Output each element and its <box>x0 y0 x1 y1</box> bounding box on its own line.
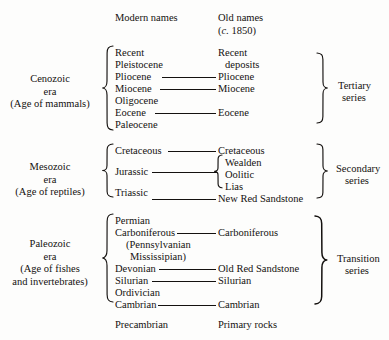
era-name-cenozoic: Cenozoic <box>0 73 100 86</box>
old-name-eocene: Eocene <box>218 107 249 119</box>
modern-name-cambrian: Cambrian <box>115 299 156 311</box>
connector-triassic <box>152 199 216 200</box>
old-name-oolitic: Oolitic <box>225 169 254 181</box>
modern-name-pleistocene: Pleistocene <box>115 59 163 71</box>
modern-name-jurassic: Jurassic <box>115 166 148 178</box>
old-name-old-red-sandstone: Old Red Sandstone <box>218 263 299 275</box>
geological-time-scale-diagram: Modern names Old names (c. 1850) Cenozoi… <box>0 0 389 340</box>
modern-name-mississipian: Mississipian) <box>130 251 186 263</box>
old-name-new-red-sandstone: New Red Sandstone <box>218 193 303 205</box>
brace-mesozoic-left <box>102 143 114 198</box>
era-name-paleozoic: Paleozoic <box>0 238 100 251</box>
old-name-cretaceous: Cretaceous <box>218 145 265 157</box>
modern-name-cretaceous: Cretaceous <box>115 145 162 157</box>
modern-name-eocene: Eocene <box>115 107 146 119</box>
connector-eocene <box>155 113 216 114</box>
modern-name-silurian: Silurian <box>115 275 148 287</box>
old-name-wealden: Wealden <box>225 157 261 169</box>
modern-name-devonian: Devonian <box>115 263 156 275</box>
series-label-tertiary-line2: series <box>342 92 366 104</box>
era-word-mesozoic: era <box>0 174 100 187</box>
era-label-paleozoic: Paleozoic era (Age of fishes and inverte… <box>0 238 100 288</box>
modern-name-permian: Permian <box>115 215 150 227</box>
column-header-old-names-date: (c. 1850) <box>218 24 256 37</box>
connector-carboniferous <box>177 233 216 234</box>
old-name-lias: Lias <box>225 181 243 193</box>
old-names-circa-abbrev: c. <box>222 25 229 36</box>
modern-name-miocene: Miocene <box>115 83 152 95</box>
modern-name-pennsylvanian: (Pennsylvanian <box>126 239 191 251</box>
era-word-cenozoic: era <box>0 86 100 99</box>
modern-name-triassic: Triassic <box>115 187 148 199</box>
modern-name-ordivician: Ordivician <box>115 287 160 299</box>
connector-cretaceous <box>168 151 216 152</box>
era-name-mesozoic: Mesozoic <box>0 161 100 174</box>
era-word-paleozoic: era <box>0 251 100 264</box>
modern-name-oligocene: Oligocene <box>115 95 158 107</box>
brace-cenozoic-left <box>102 45 114 131</box>
modern-name-pliocene: Pliocene <box>115 71 151 83</box>
series-label-secondary: Secondary <box>336 163 380 175</box>
brace-jurassic-subdivisions <box>214 154 223 188</box>
connector-silurian <box>152 281 216 282</box>
era-subtitle-paleozoic-line1: (Age of fishes <box>0 263 100 276</box>
old-name-deposits: deposits <box>225 59 259 71</box>
connector-miocene <box>160 89 216 90</box>
footer-modern-precambrian: Precambrian <box>115 319 168 331</box>
old-name-silurian: Silurian <box>218 275 251 287</box>
era-subtitle-mesozoic: (Age of reptiles) <box>0 186 100 199</box>
brace-paleozoic-left <box>102 213 114 303</box>
connector-cambrian <box>158 305 216 306</box>
era-label-mesozoic: Mesozoic era (Age of reptiles) <box>0 161 100 199</box>
old-name-cambrian: Cambrian <box>218 299 259 311</box>
modern-name-paleocene: Paleocene <box>115 119 158 131</box>
footer-old-primary-rocks: Primary rocks <box>218 319 277 331</box>
era-subtitle-paleozoic-line2: and invertebrates) <box>0 276 100 289</box>
brace-secondary-right <box>316 143 328 199</box>
old-name-miocene: Miocene <box>218 83 255 95</box>
brace-tertiary-right <box>316 52 328 124</box>
column-header-old-names: Old names <box>218 11 263 24</box>
series-label-transition-line2: series <box>345 265 369 277</box>
old-name-recent: Recent <box>218 47 247 59</box>
era-subtitle-cenozoic: (Age of mammals) <box>0 98 100 111</box>
old-names-year: 1850 <box>231 25 252 36</box>
brace-transition-right <box>314 215 328 305</box>
era-label-cenozoic: Cenozoic era (Age of mammals) <box>0 73 100 111</box>
column-header-modern-names: Modern names <box>115 11 178 24</box>
old-name-pliocene: Pliocene <box>218 71 254 83</box>
modern-name-recent: Recent <box>115 47 144 59</box>
old-name-carboniferous: Carboniferous <box>218 227 278 239</box>
series-label-secondary-line2: series <box>345 175 369 187</box>
series-label-transition: Transition <box>337 253 380 265</box>
modern-name-carboniferous: Carboniferous <box>115 227 175 239</box>
series-label-tertiary: Tertiary <box>338 80 371 92</box>
connector-pliocene <box>162 77 216 78</box>
connector-jurassic <box>152 172 217 173</box>
connector-devonian <box>159 269 216 270</box>
